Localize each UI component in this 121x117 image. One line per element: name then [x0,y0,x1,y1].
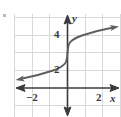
y-tick-label-4: 4 [54,29,60,40]
y-axis-arrow-up [64,15,71,24]
x-tick-label-2: 2 [96,92,102,103]
x-axis-arrow-right [110,85,119,92]
y-tick-label-2: 2 [54,64,60,75]
y-axis-label: y [72,13,77,24]
x-axis-arrow-left [16,85,25,92]
coordinate-plane-svg [0,0,121,117]
x-axis-label: x [110,93,116,104]
y-axis-arrow-down [64,107,71,116]
graph-figure: 4 2 −2 2 y x [0,0,121,117]
x-tick-label-minus-2: −2 [26,92,38,103]
